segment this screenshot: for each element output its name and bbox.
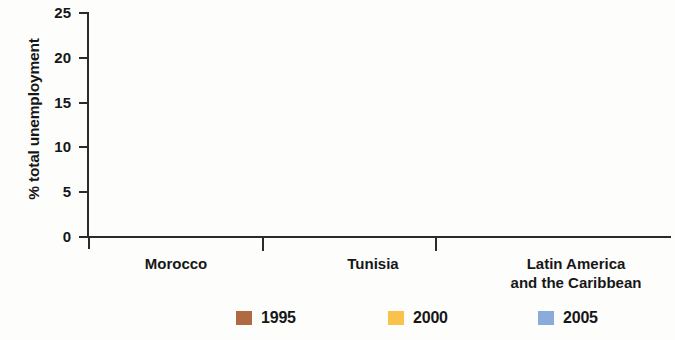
x-axis-separator-tick bbox=[435, 238, 437, 251]
chart-legend: 199520002005 bbox=[0, 309, 675, 337]
x-axis-separator-tick bbox=[88, 238, 90, 249]
bar-chart: % total unemployment 2520151050 MoroccoT… bbox=[0, 0, 675, 340]
legend-item-1995[interactable]: 1995 bbox=[236, 309, 296, 327]
legend-item-2005[interactable]: 2005 bbox=[538, 309, 598, 327]
x-axis-separator-tick bbox=[262, 238, 264, 251]
legend-swatch-icon bbox=[538, 311, 554, 325]
legend-label: 2000 bbox=[413, 309, 448, 327]
x-axis-label-tunisia: Tunisia bbox=[273, 254, 473, 273]
x-axis-label-latin-america: Latin America and the Caribbean bbox=[476, 254, 675, 292]
bars-layer bbox=[0, 0, 675, 237]
legend-swatch-icon bbox=[388, 311, 404, 325]
legend-item-2000[interactable]: 2000 bbox=[388, 309, 448, 327]
x-axis-label-morocco: Morocco bbox=[76, 254, 276, 273]
legend-swatch-icon bbox=[236, 311, 252, 325]
legend-label: 1995 bbox=[261, 309, 296, 327]
legend-label: 2005 bbox=[563, 309, 598, 327]
